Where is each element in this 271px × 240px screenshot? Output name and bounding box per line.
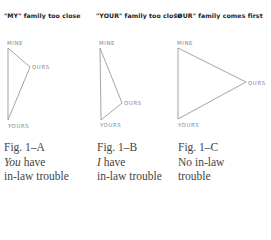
figure-a-ours-label: OURS xyxy=(32,64,50,70)
figure-b-caption-line1: I have xyxy=(97,155,162,170)
figure-b-caption-line2: in-law trouble xyxy=(97,169,162,184)
figure-a-caption-em: You xyxy=(4,156,21,168)
figure-a-caption-rest: have xyxy=(21,156,46,168)
figure-c-caption-line1: No in-law xyxy=(178,155,224,170)
triangle-b xyxy=(100,48,122,120)
figure-c-yours-label: YOURS xyxy=(178,122,199,128)
figure-b-yours-label: YOURS xyxy=(100,122,121,128)
figure-c-caption-fig: Fig. 1–C xyxy=(178,140,224,155)
figure-a-mine-label: MINE xyxy=(7,40,23,46)
figure-b-caption-fig: Fig. 1–B xyxy=(97,140,162,155)
figure-c-caption-line2: trouble xyxy=(178,169,224,184)
figure-a-caption: Fig. 1–A You have in-law trouble xyxy=(4,140,69,184)
figure-b-caption: Fig. 1–B I have in-law trouble xyxy=(97,140,162,184)
triangle-a xyxy=(8,48,30,120)
figure-c-mine-label: MINE xyxy=(177,40,193,46)
figure-c-caption: Fig. 1–C No in-law trouble xyxy=(178,140,224,184)
figure-a-yours-label: YOURS xyxy=(8,123,29,129)
triangle-c xyxy=(178,48,246,119)
figure-b-caption-rest: have xyxy=(101,156,126,168)
figure-a-caption-line1: You have xyxy=(4,155,69,170)
figure-a-caption-line2: in-law trouble xyxy=(4,169,69,184)
figure-b-mine-label: MINE xyxy=(99,40,115,46)
figure-c-ours-label: OURS xyxy=(248,80,266,86)
figure-a-caption-fig: Fig. 1–A xyxy=(4,140,69,155)
figure-b-ours-label: OURS xyxy=(124,100,142,106)
